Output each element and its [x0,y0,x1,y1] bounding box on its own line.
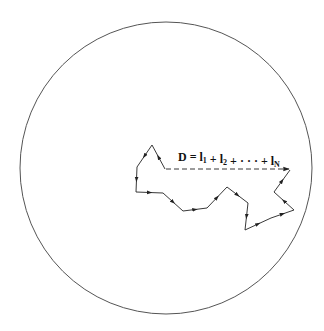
walk-step [163,193,183,211]
walk-step [245,203,248,230]
walk-step [207,187,227,208]
walk-step [271,210,294,218]
displacement-equation: D = l1 + l2 + · · · + lN [178,150,280,169]
walk-step [137,145,152,167]
random-walk-diagram: D = l1 + l2 + · · · + lN [0,0,324,331]
walk-step [136,192,163,193]
walk-step [245,218,271,230]
walk-step [274,192,294,210]
walk-step [152,145,165,169]
walk-step [227,187,248,203]
boundary-circle [20,22,312,314]
walk-step [274,170,290,192]
walk-step [136,167,137,192]
walk-step [183,208,207,211]
